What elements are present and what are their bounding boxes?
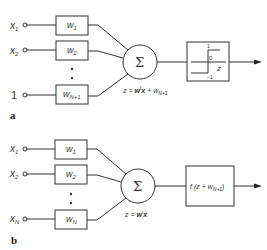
input-label-xn: xN xyxy=(9,213,20,225)
input-label-bias: 1 xyxy=(11,89,17,101)
ellipsis-dot-icon xyxy=(71,68,73,70)
ellipsis-dot-icon xyxy=(70,202,72,204)
panel-label-a: a xyxy=(10,109,16,121)
sum-equation: z = wtx + wN+1 xyxy=(122,85,168,96)
input-label-x2: x2 xyxy=(9,168,19,180)
neuron-diagram: x1 x2 1 w1 w2 wN+1 Σ z = wtx + wN+1 xyxy=(0,0,267,250)
ellipsis-dot-icon xyxy=(70,193,72,195)
sigma-icon: Σ xyxy=(133,179,142,194)
input-terminal-icon xyxy=(23,217,27,221)
arrow-right-icon xyxy=(254,184,262,189)
ellipsis-dot-icon xyxy=(71,77,73,79)
input-label-x1: x1 xyxy=(9,20,18,32)
weight-to-sum-wire xyxy=(87,175,121,182)
input-label-x2: x2 xyxy=(9,45,19,57)
arrow-right-icon xyxy=(254,60,262,65)
step-label-bottom: −1 xyxy=(207,74,213,80)
input-terminal-icon xyxy=(23,48,27,52)
panel-label-b: b xyxy=(11,234,17,246)
input-terminal-icon xyxy=(23,147,27,151)
step-label-top: 1 xyxy=(207,43,210,49)
weight-to-sum-wire xyxy=(88,25,128,50)
input-terminal-icon xyxy=(23,93,27,97)
input-label-x1: x1 xyxy=(9,143,18,155)
sigma-icon: Σ xyxy=(135,55,144,70)
weight-to-sum-wire xyxy=(88,51,123,58)
panel-a: x1 x2 1 w1 w2 wN+1 Σ z = wtx + wN+1 xyxy=(9,16,262,121)
weight-to-sum-wire xyxy=(87,198,126,220)
step-axis-label: z xyxy=(216,64,221,73)
input-terminal-icon xyxy=(23,23,27,27)
input-terminal-icon xyxy=(23,172,27,176)
weight-to-sum-wire xyxy=(87,149,126,174)
sum-equation: z = wtx xyxy=(124,209,148,218)
panel-b: x1 x2 xN w1 w2 wN Σ z = wtx f (z + wN+1)… xyxy=(9,140,262,246)
weight-to-sum-wire xyxy=(88,74,128,96)
